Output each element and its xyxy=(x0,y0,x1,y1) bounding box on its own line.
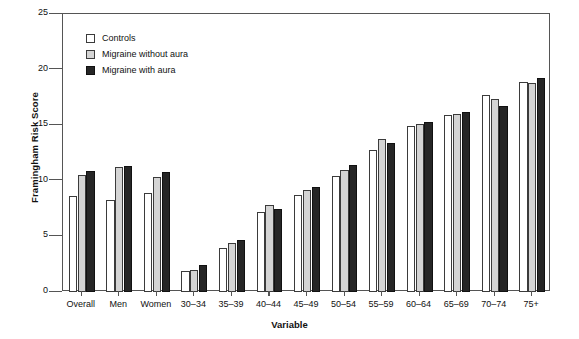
bar xyxy=(106,200,114,292)
bar xyxy=(312,187,320,292)
bar xyxy=(294,195,302,292)
y-axis-tick-label: 5 xyxy=(20,229,48,239)
legend-label: Migraine with aura xyxy=(102,65,176,75)
bar xyxy=(257,212,265,292)
black-square-swatch-icon xyxy=(86,66,95,75)
y-axis-tick-label: 20 xyxy=(20,63,48,73)
y-axis-tick xyxy=(49,68,62,69)
x-axis-title: Variable xyxy=(0,319,579,330)
bar xyxy=(274,209,282,292)
y-axis-tick xyxy=(49,13,62,14)
bar xyxy=(462,112,470,292)
x-axis-tick xyxy=(268,291,269,296)
x-axis-tick xyxy=(193,291,194,296)
y-axis-tick xyxy=(49,124,62,125)
y-axis-tick xyxy=(49,235,62,236)
white-square-swatch-icon xyxy=(86,34,95,43)
bar xyxy=(86,171,94,292)
y-axis-tick xyxy=(49,179,62,180)
x-axis-tick xyxy=(118,291,119,296)
chart-legend: Controls Migraine without aura Migraine … xyxy=(86,30,188,78)
x-axis-tick xyxy=(156,291,157,296)
bar xyxy=(416,124,424,292)
bar xyxy=(115,167,123,292)
legend-item-migraine-without-aura: Migraine without aura xyxy=(86,46,188,62)
legend-item-migraine-with-aura: Migraine with aura xyxy=(86,62,188,78)
bar xyxy=(228,243,236,292)
y-axis-tick-label: 10 xyxy=(20,174,48,184)
bar xyxy=(78,175,86,292)
bar xyxy=(199,265,207,292)
x-axis-tick xyxy=(81,291,82,296)
bar xyxy=(453,114,461,292)
bar xyxy=(537,78,545,292)
legend-item-controls: Controls xyxy=(86,30,188,46)
bar xyxy=(303,190,311,292)
y-axis-tick-label: 15 xyxy=(20,118,48,128)
x-axis-tick xyxy=(231,291,232,296)
bar xyxy=(340,170,348,292)
bar xyxy=(378,139,386,292)
bar xyxy=(162,172,170,292)
bar xyxy=(491,99,499,292)
bar xyxy=(407,126,415,292)
bar xyxy=(369,150,377,292)
x-axis-tick xyxy=(381,291,382,296)
y-axis-tick xyxy=(49,291,62,292)
bar xyxy=(444,115,452,292)
bar xyxy=(69,196,77,292)
bar xyxy=(237,240,245,292)
y-axis-tick-label: 25 xyxy=(20,7,48,17)
bar xyxy=(519,82,527,292)
bar xyxy=(332,176,340,292)
bar xyxy=(387,143,395,292)
bar xyxy=(219,248,227,292)
x-axis-tick xyxy=(344,291,345,296)
x-axis-tick xyxy=(419,291,420,296)
bar xyxy=(349,165,357,292)
bar xyxy=(265,205,273,292)
x-axis-tick xyxy=(531,291,532,296)
bar xyxy=(528,83,536,292)
bar xyxy=(190,270,198,292)
y-axis-tick-label: 0 xyxy=(20,285,48,295)
bar xyxy=(181,271,189,292)
framingham-risk-score-bar-chart: Framingham Risk Score 0510152025 Overall… xyxy=(0,0,579,339)
x-axis-tick xyxy=(456,291,457,296)
legend-label: Migraine without aura xyxy=(102,49,188,59)
x-axis-tick-label: 75+ xyxy=(501,299,561,309)
bar xyxy=(499,106,507,292)
bar xyxy=(124,166,132,292)
x-axis-tick xyxy=(306,291,307,296)
legend-label: Controls xyxy=(102,33,136,43)
gray-square-swatch-icon xyxy=(86,50,95,59)
bar xyxy=(144,193,152,292)
bar xyxy=(424,122,432,292)
bar xyxy=(482,95,490,292)
x-axis-tick xyxy=(494,291,495,296)
bar xyxy=(153,177,161,292)
